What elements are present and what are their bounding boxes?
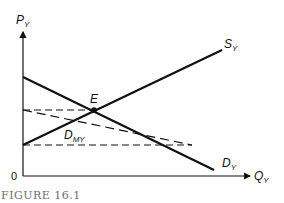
demand-label: DY	[222, 156, 237, 172]
x-axis-label: QY	[254, 169, 269, 185]
supply-demand-diagram: PY QY SY DY DMY E 0 FIGURE 16.1	[0, 0, 284, 203]
supply-label: SY	[224, 37, 238, 53]
y-axis-label: PY	[16, 13, 30, 29]
figure-caption: FIGURE 16.1	[1, 189, 81, 202]
origin-label: 0	[11, 170, 17, 182]
demand-curve	[23, 77, 214, 170]
marginal-demand-curve	[23, 110, 192, 145]
equilibrium-point	[91, 107, 97, 113]
equilibrium-label: E	[90, 92, 99, 106]
marginal-demand-label: DMY	[64, 128, 85, 144]
